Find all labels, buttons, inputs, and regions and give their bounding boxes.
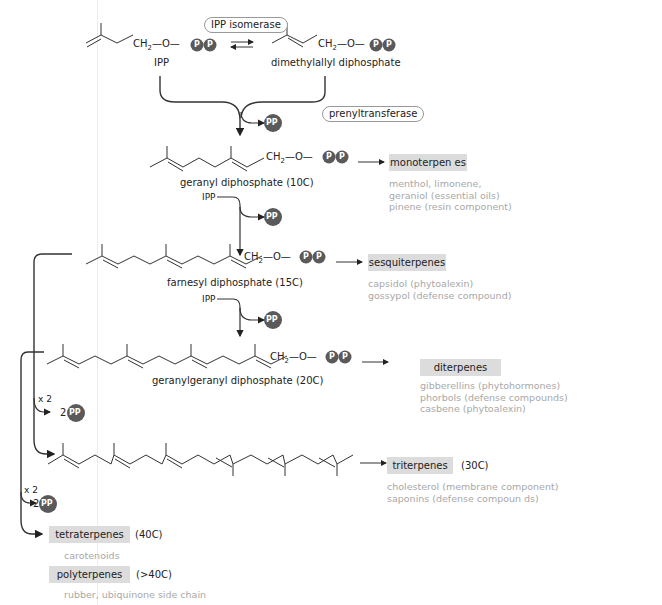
ipp-input-step3: IPP bbox=[202, 293, 216, 305]
release-2pp-a: 2 bbox=[60, 407, 66, 419]
label-dmapp: dimethylallyl diphosphate bbox=[271, 57, 401, 69]
dmapp-ch2-o: CH2—O— bbox=[318, 38, 365, 54]
label-gpp: geranyl diphosphate (10C) bbox=[180, 177, 314, 189]
class-diterpenes: diterpenes bbox=[420, 359, 501, 376]
class-tetraterpenes: tetraterpenes bbox=[49, 526, 130, 543]
examples-polyterpenes: rubber, ubiquinone side chain bbox=[64, 589, 206, 601]
label-fpp: farnesyl diphosphate (15C) bbox=[167, 277, 303, 289]
examples-triterpenes: cholesterol (membrane component)saponins… bbox=[387, 481, 558, 504]
examples-sesquiterpenes: capsidol (phytoalexin)gossypol (defense … bbox=[368, 278, 511, 301]
gpp-structure bbox=[150, 146, 264, 171]
enzyme-prenyltransferase: prenyltransferase bbox=[322, 106, 424, 122]
class-sesquiterpenes: sesquiterpenes bbox=[368, 254, 446, 271]
class-monoterpenes: monoterpen es bbox=[389, 154, 467, 171]
fpp-ch2-o: CH2—O— bbox=[244, 251, 291, 267]
terpene-pathway-diagram bbox=[0, 0, 662, 605]
enzyme-ipp-isomerase: IPP isomerase bbox=[204, 17, 288, 33]
ipp-structure bbox=[86, 23, 133, 47]
examples-diterpenes: gibberellins (phytohormones)phorbols (de… bbox=[420, 380, 568, 415]
ggpp-structure bbox=[47, 344, 287, 368]
squalene-structure bbox=[48, 443, 353, 476]
examples-monoterpenes: menthol, limonene,geraniol (essential oi… bbox=[389, 178, 512, 213]
ggpp-ch2-o: CH2—O— bbox=[270, 351, 317, 367]
carbons-tetraterpenes: (40C) bbox=[135, 526, 163, 543]
examples-tetraterpenes: carotenoids bbox=[64, 550, 120, 562]
ipp-ch2-o: CH2—O— bbox=[133, 38, 180, 54]
carbons-triterpenes: (30C) bbox=[461, 457, 489, 474]
gpp-ch2-o: CH2—O— bbox=[266, 151, 313, 167]
class-polyterpenes: polyterpenes bbox=[49, 566, 130, 583]
class-triterpenes: triterpenes bbox=[387, 457, 453, 474]
release-2pp-b: 2 bbox=[33, 498, 39, 510]
ipp-input-step2: IPP bbox=[202, 191, 216, 203]
label-ggpp: geranylgeranyl diphosphate (20C) bbox=[152, 375, 323, 387]
multiplier-x2-a: x 2 bbox=[38, 393, 52, 405]
multiplier-x2-b: x 2 bbox=[24, 484, 38, 496]
fpp-structure bbox=[86, 244, 262, 268]
carbons-polyterpenes: (>40C) bbox=[136, 566, 172, 583]
label-ipp: IPP bbox=[154, 57, 169, 69]
